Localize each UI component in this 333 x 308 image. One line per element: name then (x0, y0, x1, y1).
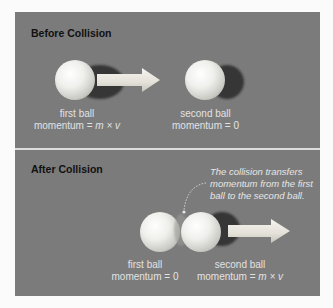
momentum-value: 0 (173, 271, 179, 282)
ball (185, 60, 225, 100)
momentum-text: momentum = 0 (104, 271, 186, 283)
momentum-text: momentum = 0 (158, 120, 253, 132)
momentum-value: m × v (95, 120, 120, 131)
collision-annotation: The collision transfers momentum from th… (210, 166, 313, 202)
ball-name: second ball (158, 108, 253, 120)
annotation-pointer-dot (182, 210, 185, 213)
ball (140, 212, 180, 252)
ball-name: second ball (188, 259, 292, 271)
momentum-value: m × v (258, 271, 283, 282)
momentum-value: 0 (233, 120, 239, 131)
ball (55, 60, 95, 100)
momentum-text: momentum = m × v (22, 120, 132, 132)
second-ball-before-label: second ball momentum = 0 (158, 108, 253, 132)
first-ball-after-label: first ball momentum = 0 (104, 259, 186, 283)
ball (181, 212, 221, 252)
second-ball-after-label: second ball momentum = m × v (188, 259, 292, 283)
momentum-text: momentum = m × v (188, 271, 292, 283)
second-ball-before (185, 60, 244, 100)
first-ball-before-label: first ball momentum = m × v (22, 108, 132, 132)
first-ball-after (140, 212, 180, 252)
ball-name: first ball (104, 259, 186, 271)
ball-name: first ball (22, 108, 132, 120)
annotation-leader-line (184, 183, 206, 210)
